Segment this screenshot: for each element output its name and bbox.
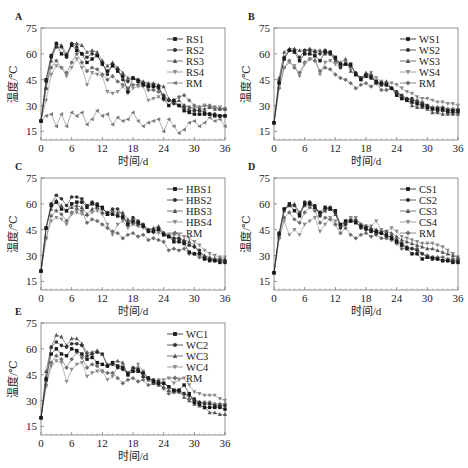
legend-entry-hbs2: HBS2 <box>186 195 212 206</box>
legend-entry-hbs3: HBS3 <box>186 206 212 217</box>
x-tick-label: 0 <box>271 292 277 304</box>
legend-entry-rs1: RS1 <box>186 34 204 45</box>
y-tick-label: 60 <box>26 48 38 60</box>
x-axis-label: 时间/d <box>118 450 149 462</box>
x-axis-label: 时间/d <box>118 155 149 167</box>
legend: WS1WS2WS3WS4RM <box>400 34 441 89</box>
y-tick-label: 75 <box>26 172 38 184</box>
y-tick-label: 60 <box>26 198 38 210</box>
y-tick-label: 75 <box>26 317 38 329</box>
legend-entry-rs4: RS4 <box>186 67 205 78</box>
chart-panel-a: A1530456075061218243036时间/d温度/℃RS1RS2RS3… <box>6 11 231 167</box>
x-tick-label: 12 <box>97 142 108 154</box>
x-tick-label: 6 <box>302 142 308 154</box>
x-tick-label: 24 <box>158 292 170 304</box>
legend-entry-cs2: CS2 <box>419 195 437 206</box>
y-tick-label: 15 <box>259 275 271 287</box>
x-tick-label: 18 <box>361 142 373 154</box>
y-tick-label: 45 <box>259 224 271 236</box>
y-tick-label: 15 <box>26 420 38 432</box>
legend-entry-hbs1: HBS1 <box>186 184 212 195</box>
legend-entry-rm: RM <box>419 78 436 89</box>
legend-entry-wc1: WC1 <box>186 329 208 340</box>
panel-label: A <box>15 11 23 22</box>
chart-panel-d: D1530456075061218243036时间/d温度/℃CS1CS2CS3… <box>239 161 464 317</box>
figure-canvas: A1530456075061218243036时间/d温度/℃RS1RS2RS3… <box>0 0 468 468</box>
y-axis-label: 温度/℃ <box>239 215 252 252</box>
legend: WC1WC2WC3WC4RM <box>167 329 209 384</box>
x-tick-label: 30 <box>189 292 201 304</box>
legend-entry-wc3: WC3 <box>186 351 208 362</box>
legend-entry-rm: RM <box>186 228 203 239</box>
x-tick-label: 6 <box>302 292 308 304</box>
x-tick-label: 24 <box>158 437 170 449</box>
x-tick-label: 0 <box>38 142 44 154</box>
y-tick-label: 60 <box>259 48 271 60</box>
legend-entry-rs2: RS2 <box>186 45 204 56</box>
y-tick-label: 75 <box>259 172 271 184</box>
y-tick-label: 45 <box>26 74 38 86</box>
x-tick-label: 18 <box>128 142 140 154</box>
chart-panel-c: C1530456075061218243036时间/d温度/℃HBS1HBS2H… <box>6 161 231 317</box>
legend: HBS1HBS2HBS3HBS4RM <box>167 184 212 239</box>
y-axis-label: 温度/℃ <box>239 65 252 102</box>
y-tick-label: 45 <box>259 74 271 86</box>
x-tick-label: 24 <box>391 292 403 304</box>
legend-entry-cs1: CS1 <box>419 184 437 195</box>
x-tick-label: 30 <box>422 292 434 304</box>
y-tick-label: 30 <box>259 250 271 262</box>
panel-label: D <box>248 161 255 172</box>
legend-entry-ws3: WS3 <box>419 56 440 67</box>
y-tick-label: 45 <box>26 224 38 236</box>
legend-entry-cs4: CS4 <box>419 217 438 228</box>
legend-entry-rm: RM <box>186 373 203 384</box>
x-tick-label: 12 <box>97 292 108 304</box>
x-tick-label: 30 <box>189 142 201 154</box>
x-tick-label: 30 <box>189 437 201 449</box>
y-axis-label: 温度/℃ <box>6 215 19 252</box>
x-tick-label: 36 <box>220 437 232 449</box>
x-tick-label: 12 <box>330 142 341 154</box>
x-tick-label: 6 <box>69 292 75 304</box>
x-tick-label: 30 <box>422 142 434 154</box>
x-tick-label: 6 <box>69 142 75 154</box>
x-tick-label: 18 <box>361 292 373 304</box>
x-tick-label: 36 <box>453 292 465 304</box>
x-axis-label: 时间/d <box>351 305 382 317</box>
y-axis-label: 温度/℃ <box>6 65 19 102</box>
legend-entry-cs3: CS3 <box>419 206 437 217</box>
y-tick-label: 30 <box>26 100 38 112</box>
x-tick-label: 6 <box>69 437 75 449</box>
x-tick-label: 18 <box>128 437 140 449</box>
x-tick-label: 0 <box>38 292 44 304</box>
legend-entry-wc4: WC4 <box>186 362 209 373</box>
x-tick-label: 12 <box>97 437 108 449</box>
legend-entry-ws4: WS4 <box>419 67 441 78</box>
y-tick-label: 30 <box>26 250 38 262</box>
legend-entry-ws1: WS1 <box>419 34 440 45</box>
y-axis-label: 温度/℃ <box>6 360 19 397</box>
panel-label: E <box>15 306 22 317</box>
x-tick-label: 36 <box>220 292 232 304</box>
y-tick-label: 30 <box>26 395 38 407</box>
x-tick-label: 0 <box>38 437 44 449</box>
y-tick-label: 30 <box>259 100 271 112</box>
legend-entry-hbs4: HBS4 <box>186 217 212 228</box>
panel-label: B <box>248 11 255 22</box>
y-tick-label: 45 <box>26 369 38 381</box>
y-tick-label: 60 <box>259 198 271 210</box>
x-tick-label: 24 <box>158 142 170 154</box>
legend-entry-rm: RM <box>419 228 436 239</box>
composting-temperature-figure: A1530456075061218243036时间/d温度/℃RS1RS2RS3… <box>0 0 468 468</box>
y-tick-label: 15 <box>259 125 271 137</box>
y-tick-label: 60 <box>26 343 38 355</box>
x-tick-label: 36 <box>453 142 465 154</box>
chart-panel-e: E1530456075061218243036时间/d温度/℃WC1WC2WC3… <box>6 306 231 462</box>
legend-entry-ws2: WS2 <box>419 45 440 56</box>
legend-entry-wc2: WC2 <box>186 340 208 351</box>
legend-entry-rs3: RS3 <box>186 56 204 67</box>
legend: RS1RS2RS3RS4RM <box>167 34 205 89</box>
y-tick-label: 75 <box>26 22 38 34</box>
x-axis-label: 时间/d <box>118 305 149 317</box>
y-tick-label: 75 <box>259 22 271 34</box>
